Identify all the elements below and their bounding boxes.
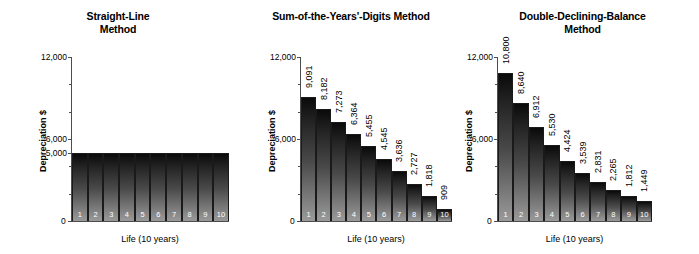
- bar-index-label: 5: [141, 211, 145, 221]
- bar[interactable]: 36,912: [529, 57, 544, 221]
- bar[interactable]: 1: [72, 57, 88, 221]
- x-axis-line: [300, 221, 452, 222]
- bar-index-label: 6: [382, 211, 386, 221]
- y-tick-label: 12,000: [41, 52, 67, 62]
- bar[interactable]: 7: [166, 57, 182, 221]
- y-tick-label: 6,000: [46, 134, 67, 144]
- bar-fill: [346, 134, 361, 221]
- bar-value-label: 6,912: [531, 95, 541, 118]
- bar-index-label: 2: [93, 211, 97, 221]
- bar-value-label: 2,727: [409, 152, 419, 175]
- bar-value-label: 909: [439, 185, 449, 200]
- bar[interactable]: 82,727: [407, 57, 422, 221]
- bar-value-label: 1,818: [424, 165, 434, 188]
- y-tick-label: 12,000: [467, 52, 493, 62]
- bar[interactable]: 54,424: [560, 57, 575, 221]
- bar[interactable]: 91,812: [621, 57, 636, 221]
- bar-value-label: 3,539: [578, 141, 588, 164]
- bar[interactable]: 45,530: [544, 57, 559, 221]
- bar-index-label: 9: [427, 211, 431, 221]
- x-axis-line: [497, 221, 652, 222]
- y-tick-major: [494, 221, 497, 222]
- bar[interactable]: 19,091: [301, 57, 316, 221]
- bar-value-label: 2,831: [593, 151, 603, 174]
- y-tick-major: [297, 139, 300, 140]
- bar-value-label: 10,800: [501, 37, 511, 65]
- bar-index-label: 8: [412, 211, 416, 221]
- bar[interactable]: 5: [135, 57, 151, 221]
- bar[interactable]: 82,265: [606, 57, 621, 221]
- bar-fill: [498, 73, 513, 221]
- bar[interactable]: 9: [198, 57, 214, 221]
- bar-index-label: 8: [611, 211, 615, 221]
- bar-index-label: 3: [534, 211, 538, 221]
- bar-index-label: 4: [352, 211, 356, 221]
- bar[interactable]: 55,455: [361, 57, 376, 221]
- y-tick-minor: [69, 84, 71, 85]
- y-tick-major: [68, 221, 71, 222]
- y-tick-minor: [298, 166, 300, 167]
- bar-value-label: 2,265: [608, 159, 618, 182]
- bar-index-label: 9: [203, 211, 207, 221]
- y-tick-label-zero: 0: [61, 216, 66, 226]
- bar-index-label: 10: [217, 211, 225, 221]
- depreciation-methods-figure: Straight-LineMethodDepreciation $5,0006,…: [0, 0, 699, 254]
- chart-title: Double-Declining-BalanceMethod: [466, 10, 699, 35]
- bar-fill: [301, 97, 316, 221]
- bar[interactable]: 3: [103, 57, 119, 221]
- bar[interactable]: 64,545: [376, 57, 391, 221]
- y-tick-minor: [495, 194, 497, 195]
- bar-value-label: 4,424: [562, 129, 572, 152]
- x-axis-label: Life (10 years): [497, 234, 652, 244]
- bar-index-label: 9: [627, 211, 631, 221]
- bar-index-label: 2: [322, 211, 326, 221]
- bar-value-label: 7,273: [334, 90, 344, 113]
- y-tick-major: [494, 57, 497, 58]
- y-tick-major: [494, 139, 497, 140]
- bar[interactable]: 10: [213, 57, 229, 221]
- y-tick-label: 5,000: [46, 148, 67, 158]
- bar[interactable]: 28,640: [513, 57, 528, 221]
- bar[interactable]: 91,818: [422, 57, 437, 221]
- bar-index-label: 6: [156, 211, 160, 221]
- y-tick-label: 12,000: [270, 52, 296, 62]
- bar-value-label: 8,182: [319, 78, 329, 101]
- bar[interactable]: 37,273: [331, 57, 346, 221]
- bar-series: 12345678910: [72, 57, 229, 221]
- bar-index-label: 10: [640, 211, 648, 221]
- bar[interactable]: 101,449: [637, 57, 652, 221]
- plot-area: 6,00012,000019,09128,18237,27346,36455,4…: [300, 57, 452, 221]
- bar[interactable]: 6: [150, 57, 166, 221]
- bar[interactable]: 72,831: [590, 57, 605, 221]
- bar[interactable]: 8: [182, 57, 198, 221]
- bar[interactable]: 46,364: [346, 57, 361, 221]
- bar-index-label: 1: [306, 211, 310, 221]
- bar-value-label: 1,449: [639, 170, 649, 193]
- bar[interactable]: 10909: [437, 57, 452, 221]
- bar[interactable]: 63,539: [575, 57, 590, 221]
- bar-fill: [316, 109, 331, 221]
- bar-value-label: 8,640: [516, 71, 526, 94]
- bar-index-label: 1: [504, 211, 508, 221]
- x-axis-label: Life (10 years): [71, 234, 229, 244]
- bar-index-label: 6: [581, 211, 585, 221]
- bar-index-label: 4: [125, 211, 129, 221]
- bar-index-label: 4: [550, 211, 554, 221]
- y-tick-major: [68, 139, 71, 140]
- bar-series: 19,09128,18237,27346,36455,45564,54573,6…: [301, 57, 452, 221]
- bar[interactable]: 110,800: [498, 57, 513, 221]
- bar-index-label: 2: [519, 211, 523, 221]
- bar[interactable]: 2: [88, 57, 104, 221]
- x-axis-line: [71, 221, 229, 222]
- bar[interactable]: 28,182: [316, 57, 331, 221]
- y-tick-minor: [298, 84, 300, 85]
- y-tick-major: [68, 153, 71, 154]
- bar-value-label: 6,364: [349, 102, 359, 125]
- bar-index-label: 10: [440, 211, 448, 221]
- bar-fill: [513, 103, 528, 221]
- y-tick-minor: [69, 112, 71, 113]
- bar-fill: [529, 127, 544, 221]
- bar[interactable]: 73,636: [392, 57, 407, 221]
- bar-value-label: 9,091: [304, 65, 314, 88]
- bar[interactable]: 4: [119, 57, 135, 221]
